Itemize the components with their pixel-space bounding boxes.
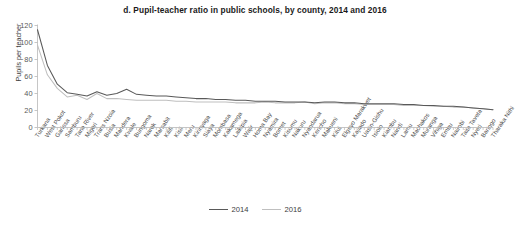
legend-item-2014[interactable]: 2014	[209, 205, 249, 214]
series-lines	[38, 30, 494, 110]
legend-line-swatch	[262, 209, 281, 210]
legend-line-swatch	[209, 209, 228, 210]
legend-label: 2016	[285, 205, 302, 214]
legend-label: 2014	[232, 205, 249, 214]
y-tick-marks	[35, 26, 38, 128]
legend-item-2016[interactable]: 2016	[262, 205, 302, 214]
chart-legend: 20142016	[0, 205, 510, 214]
axis-lines	[38, 25, 494, 128]
